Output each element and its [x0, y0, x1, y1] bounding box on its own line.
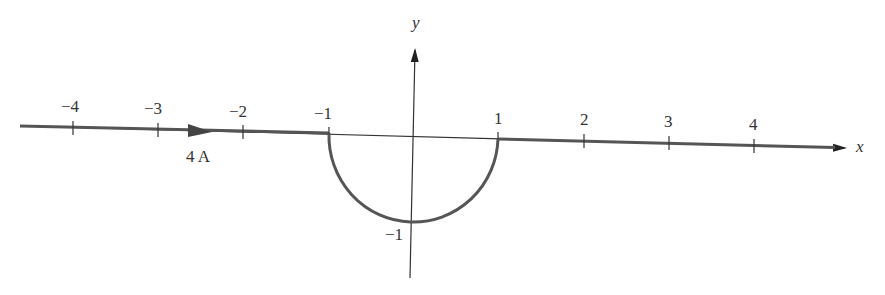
- y-axis: [410, 50, 415, 278]
- x-tick-label: 4: [749, 115, 758, 134]
- x-tick-label: 3: [664, 112, 673, 131]
- y-axis-label: y: [410, 13, 420, 32]
- x-tick-label: 1: [494, 109, 503, 128]
- wire-right-segment: [498, 139, 835, 148]
- diagram-canvas: −4 −3 −2 −1 1 2 3 4 −1 x y 4 A: [0, 0, 885, 295]
- x-tick-label: −2: [229, 102, 247, 121]
- x-axis-label: x: [855, 137, 864, 156]
- x-tick-label: −3: [144, 99, 162, 118]
- x-tick-label: −4: [61, 97, 80, 116]
- x-tick-label: −1: [314, 104, 332, 123]
- y-tick-label: −1: [385, 225, 403, 244]
- current-label: 4 A: [186, 147, 211, 166]
- wire-left-segment: [20, 126, 329, 133]
- x-tick-label: 2: [580, 110, 589, 129]
